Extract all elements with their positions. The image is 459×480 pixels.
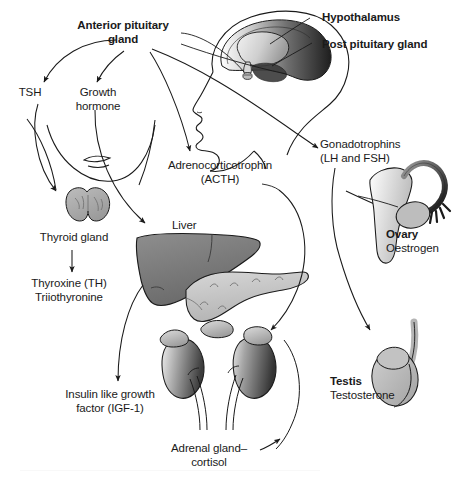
- label-gonadotrophins: Gonadotrophins (LH and FSH): [320, 138, 400, 165]
- scan-artifact: [20, 470, 320, 471]
- label-anterior-pituitary-gland: Anterior pituitary gland: [62, 19, 184, 46]
- label-adrenal-gland: Adrenal gland– cortisol: [155, 442, 263, 469]
- arrow-ap-to-gh: [97, 51, 124, 82]
- label-adrenocorticotrophin: Adrenocorticotrophin (ACTH): [163, 159, 277, 186]
- gonadotrophin-stem: [332, 168, 340, 258]
- tsh-thyroid-arrow-group: [35, 104, 56, 191]
- arrow-ap-to-tsh: [44, 40, 116, 82]
- label-igf: Insulin like growth factor (IGF-1): [44, 388, 176, 415]
- kidneys-adrenals-illustration: [160, 320, 276, 430]
- arrow-ap-to-acth: [150, 52, 190, 151]
- label-testis: Testis: [330, 375, 362, 389]
- arrow-gonadotrophins-to-testis: [340, 258, 370, 330]
- pancreas-illustration: [186, 272, 308, 321]
- label-oestrogen: Oestrogen: [386, 242, 439, 256]
- endocrine-diagram-page: Anterior pituitary gland Hypothalamus Po…: [0, 0, 459, 480]
- label-ovary: Ovary: [386, 228, 418, 242]
- neck-bust-outline: [27, 119, 155, 190]
- arrow-tsh-to-thyroid: [35, 104, 56, 191]
- thyroid-gland-illustration: [66, 188, 110, 221]
- label-testosterone: Testosterone: [330, 389, 395, 403]
- arrow-acth-to-adrenal: [271, 190, 305, 330]
- label-thyroid-gland: Thyroid gland: [29, 231, 119, 245]
- label-hypothalamus: Hypothalamus: [322, 11, 400, 25]
- label-growth-hormone: Growth hormone: [62, 86, 134, 113]
- acth-adrenal-arrow-group: [262, 184, 305, 330]
- label-liver: Liver: [172, 219, 196, 233]
- label-post-pituitary-gland: Post pituitary gland: [322, 38, 427, 52]
- label-tsh: TSH: [6, 86, 54, 100]
- label-thyroxine: Thyroxine (TH) Triiothyronine: [10, 277, 128, 304]
